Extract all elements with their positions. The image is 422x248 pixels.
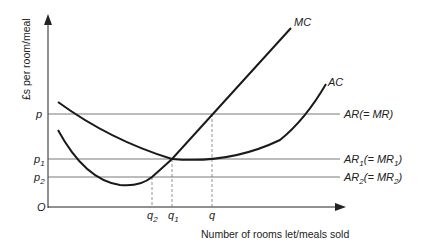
ac-curve (58, 84, 326, 160)
q2-label: q2 (147, 209, 158, 224)
ac-label: AC (327, 76, 343, 88)
mc-curve (58, 28, 291, 185)
origin-label: O (37, 201, 46, 213)
p1-label: p1 (33, 153, 45, 168)
p-label: p (35, 108, 42, 120)
ar2-mr2-label: AR2(= MR2) (343, 171, 402, 186)
q1-label: q1 (168, 209, 179, 224)
x-axis-title: Number of rooms let/meals sold (201, 228, 349, 240)
q-label: q (209, 209, 216, 221)
p2-label: p2 (33, 171, 45, 186)
cost-revenue-diagram: MC AC p p1 p2 O AR(= MR) AR1(= MR1) AR2(… (0, 0, 422, 248)
y-axis-arrow-icon (44, 14, 52, 25)
ar-mr-label: AR(= MR) (343, 108, 394, 120)
ar1-mr1-label: AR1(= MR1) (343, 153, 402, 168)
mc-label: MC (294, 16, 311, 28)
x-axis-arrow-icon (335, 203, 346, 211)
y-axis-title: £s per room/meal (20, 18, 32, 100)
